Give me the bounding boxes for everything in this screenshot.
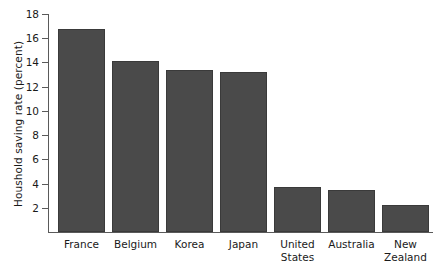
y-tick-label: 18 <box>26 8 39 20</box>
bar-group: France <box>58 14 105 232</box>
bars-layer: FranceBelgiumKoreaJapanUnited StatesAust… <box>48 14 433 232</box>
bar-group: Australia <box>328 14 375 232</box>
y-tick-label: 14 <box>26 56 39 68</box>
bar <box>328 190 375 232</box>
x-axis-label: New Zealand <box>373 238 439 263</box>
bar-group: New Zealand <box>382 14 429 232</box>
bar <box>58 29 105 232</box>
y-tick-label: 4 <box>32 178 39 190</box>
y-tick-label: 12 <box>26 81 39 93</box>
y-tick-label: 16 <box>26 32 39 44</box>
bar <box>220 72 267 232</box>
bar-group: United States <box>274 14 321 232</box>
bar <box>112 61 159 232</box>
bar <box>166 70 213 232</box>
y-tick-label: 6 <box>32 153 39 165</box>
bar-group: Korea <box>166 14 213 232</box>
y-tick-label: 2 <box>32 202 39 214</box>
x-axis-line <box>48 232 433 233</box>
y-tick-label: 10 <box>26 105 39 117</box>
bar <box>274 187 321 232</box>
bar <box>382 205 429 232</box>
y-tick-label: 8 <box>32 129 39 141</box>
bar-chart: Houshold saving rate (percent) 246810121… <box>0 0 441 278</box>
plot-area: 24681012141618 FranceBelgiumKoreaJapanUn… <box>48 14 433 232</box>
bar-group: Japan <box>220 14 267 232</box>
bar-group: Belgium <box>112 14 159 232</box>
y-axis-title: Houshold saving rate (percent) <box>9 8 27 240</box>
